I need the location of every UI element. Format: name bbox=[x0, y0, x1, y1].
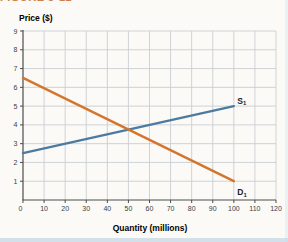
x-tick-label: 120 bbox=[270, 205, 282, 212]
x-axis-title: Quantity (millions) bbox=[113, 223, 188, 233]
page-edge-tint-bottom bbox=[0, 238, 288, 242]
y-tick-label: 3 bbox=[14, 140, 18, 147]
page-edge-tint-right bbox=[285, 0, 288, 242]
x-tick-label: 40 bbox=[103, 205, 111, 212]
y-tick-label: 5 bbox=[14, 103, 18, 110]
x-tick-label: 70 bbox=[167, 205, 175, 212]
x-tick-label: 100 bbox=[228, 205, 240, 212]
x-tick-label: 0 bbox=[19, 205, 23, 212]
y-tick-label: 1 bbox=[14, 178, 18, 185]
chart-generated-layer: 0102030405060708090100110120123456789S1D… bbox=[14, 28, 282, 213]
y-tick-label: 6 bbox=[14, 84, 18, 91]
y-tick-label: 9 bbox=[14, 28, 18, 35]
y-tick-label: 7 bbox=[14, 65, 18, 72]
y-tick-label: 2 bbox=[14, 159, 18, 166]
x-tick-label: 80 bbox=[188, 205, 196, 212]
x-tick-label: 50 bbox=[125, 205, 133, 212]
figure-panel: FIGURE 3-12 Price ($) 010203040506070809… bbox=[0, 0, 288, 242]
x-tick-label: 110 bbox=[249, 205, 260, 212]
chart-canvas: Price ($) 010203040506070809010011012012… bbox=[0, 0, 288, 242]
y-tick-label: 8 bbox=[14, 46, 18, 53]
series-label-S1: S1 bbox=[237, 96, 247, 107]
x-tick-label: 10 bbox=[40, 205, 48, 212]
y-axis-title: Price ($) bbox=[19, 13, 53, 23]
x-tick-label: 30 bbox=[82, 205, 90, 212]
series-label-D1: D1 bbox=[237, 187, 247, 198]
x-tick-label: 60 bbox=[146, 205, 154, 212]
x-tick-label: 20 bbox=[61, 205, 69, 212]
y-tick-label: 4 bbox=[14, 121, 18, 128]
x-tick-label: 90 bbox=[209, 205, 217, 212]
